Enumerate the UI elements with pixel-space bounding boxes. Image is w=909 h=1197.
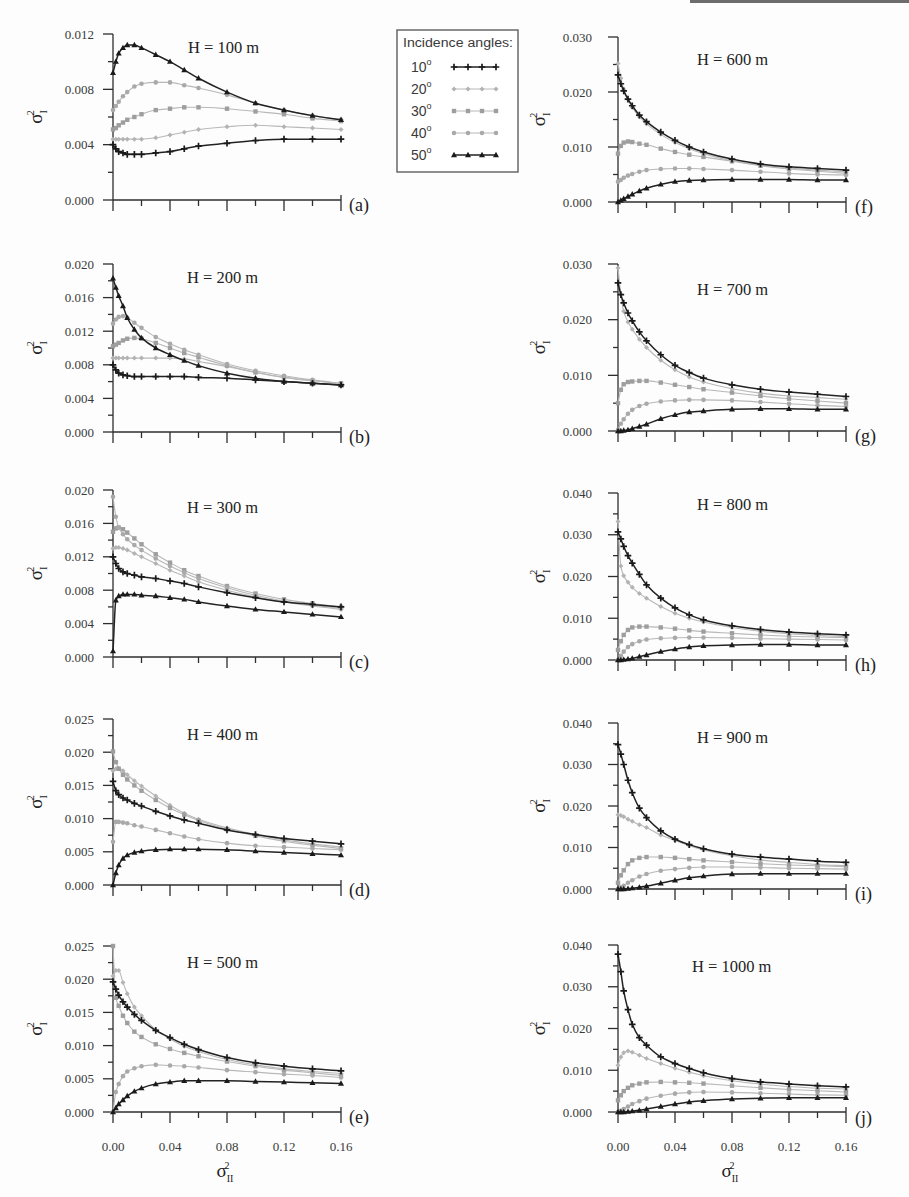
x-tick-label: 0.08 bbox=[721, 1139, 744, 1154]
square-marker-icon bbox=[730, 1083, 734, 1087]
diamond-marker-icon bbox=[339, 127, 344, 132]
plus-marker-icon bbox=[843, 167, 850, 174]
square-marker-icon bbox=[730, 390, 734, 394]
circle-marker-icon bbox=[310, 1073, 315, 1078]
series-line bbox=[113, 548, 341, 610]
panel-letter: (f) bbox=[855, 197, 873, 218]
panel-title: H = 900 m bbox=[697, 728, 768, 747]
y-tick-label: 0.020 bbox=[563, 569, 592, 584]
diamond-marker-icon bbox=[120, 137, 125, 142]
circle-marker-icon bbox=[787, 637, 792, 642]
square-marker-icon bbox=[758, 1086, 762, 1090]
circle-marker-icon bbox=[621, 176, 626, 181]
y-axis-label: σI2 bbox=[528, 341, 552, 355]
y-tick-label: 0.000 bbox=[65, 425, 94, 440]
superscript: 2 bbox=[528, 341, 539, 346]
circle-marker-icon bbox=[658, 636, 663, 641]
series-40deg bbox=[616, 635, 849, 662]
circle-marker-icon bbox=[125, 90, 130, 95]
diamond-marker-icon bbox=[673, 611, 678, 616]
plus-marker-icon bbox=[729, 381, 736, 388]
panel-j: H = 1000 m (j) 0.0000.0100.0200.0300.040… bbox=[528, 938, 872, 1185]
series-50deg bbox=[110, 275, 344, 387]
circle-marker-icon bbox=[282, 845, 287, 850]
square-marker-icon bbox=[630, 379, 634, 383]
y-tick-label: 0.030 bbox=[563, 527, 592, 542]
plus-marker-icon bbox=[152, 808, 159, 815]
y-tick-label: 0.020 bbox=[563, 312, 592, 327]
plus-marker-icon bbox=[224, 140, 231, 147]
series-50deg bbox=[110, 591, 344, 653]
plus-marker-icon bbox=[700, 375, 707, 382]
plus-marker-icon bbox=[338, 136, 345, 143]
circle-marker-icon bbox=[630, 642, 635, 647]
circle-marker-icon bbox=[701, 1090, 706, 1095]
square-marker-icon bbox=[659, 380, 663, 384]
y-tick-label: 0.012 bbox=[65, 27, 94, 42]
plus-marker-icon bbox=[181, 817, 188, 824]
circle-marker-icon bbox=[182, 1064, 187, 1069]
square-marker-icon bbox=[687, 153, 691, 157]
circle-marker-icon bbox=[626, 645, 631, 650]
y-tick-label: 0.000 bbox=[563, 195, 592, 210]
circle-marker-icon bbox=[153, 556, 158, 561]
square-marker-icon bbox=[701, 387, 705, 391]
diamond-marker-icon bbox=[168, 568, 173, 573]
circle-marker-icon bbox=[787, 171, 792, 176]
y-tick-label: 0.015 bbox=[65, 778, 94, 793]
diamond-marker-icon bbox=[637, 822, 642, 827]
diamond-marker-icon bbox=[116, 137, 121, 142]
circle-marker-icon bbox=[673, 166, 678, 171]
y-tick-label: 0.010 bbox=[563, 1063, 592, 1078]
panel-d: H = 400 m (d) 0.0000.0050.0100.0150.0200… bbox=[25, 712, 370, 902]
circle-marker-icon bbox=[339, 848, 344, 853]
diamond-marker-icon bbox=[153, 135, 158, 140]
triangle-marker-icon bbox=[113, 870, 119, 875]
panel-title: H = 200 m bbox=[187, 268, 258, 287]
circle-marker-icon bbox=[153, 828, 158, 833]
circle-marker-icon bbox=[282, 373, 287, 378]
diamond-marker-icon bbox=[125, 991, 130, 996]
triangle-marker-icon bbox=[110, 275, 116, 280]
panel-letter: (e) bbox=[349, 1107, 369, 1128]
circle-marker-icon bbox=[339, 1075, 344, 1080]
y-tick-label: 0.000 bbox=[563, 1105, 592, 1120]
degree-symbol: o bbox=[427, 57, 432, 67]
y-tick-label: 0.004 bbox=[65, 137, 95, 152]
square-marker-icon bbox=[616, 881, 620, 885]
square-marker-icon bbox=[701, 629, 705, 633]
square-marker-icon bbox=[125, 1021, 129, 1025]
series-10deg bbox=[615, 741, 850, 865]
x-tick-label: 0.16 bbox=[835, 1139, 858, 1154]
plus-marker-icon bbox=[625, 777, 632, 784]
series-line bbox=[113, 752, 341, 849]
plus-marker-icon bbox=[786, 389, 793, 396]
legend-angle: 10 bbox=[411, 59, 427, 75]
diamond-marker-icon bbox=[630, 1050, 635, 1055]
circle-marker-icon bbox=[225, 362, 230, 367]
series-line bbox=[113, 849, 341, 885]
series-20deg bbox=[616, 519, 849, 639]
diamond-marker-icon bbox=[282, 124, 287, 129]
circle-marker-icon bbox=[815, 637, 820, 642]
circle-marker-icon bbox=[630, 408, 635, 413]
circle-marker-icon bbox=[730, 636, 735, 641]
circle-marker-icon bbox=[139, 1064, 144, 1069]
y-axis-label: σI2 bbox=[25, 567, 49, 581]
square-marker-icon bbox=[730, 860, 734, 864]
plus-marker-icon bbox=[672, 605, 679, 612]
panel-title: H = 100 m bbox=[188, 38, 259, 57]
y-tick-label: 0.004 bbox=[65, 616, 95, 631]
circle-marker-icon bbox=[225, 1068, 230, 1073]
superscript: 2 bbox=[25, 110, 36, 115]
diamond-marker-icon bbox=[120, 356, 125, 361]
plus-marker-icon bbox=[615, 951, 622, 958]
circle-marker-icon bbox=[114, 1090, 119, 1095]
plus-marker-icon bbox=[138, 803, 145, 810]
y-tick-label: 0.015 bbox=[65, 1005, 94, 1020]
y-tick-label: 0.040 bbox=[563, 486, 592, 501]
series-line bbox=[618, 532, 846, 635]
circle-marker-icon bbox=[168, 80, 173, 85]
series-line bbox=[618, 637, 846, 660]
square-marker-icon bbox=[619, 873, 623, 877]
